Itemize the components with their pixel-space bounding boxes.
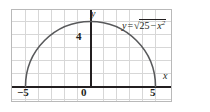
y-axis-label: y <box>91 8 95 19</box>
equation-annotation: y=√25−x2 <box>122 20 166 31</box>
x-axis-label: x <box>163 70 167 81</box>
y-tick-label-four: 4 <box>76 30 82 42</box>
equation-equals: = <box>126 20 134 31</box>
x-tick-label-neg5: −5 <box>17 86 29 98</box>
equation-exponent: 2 <box>162 19 166 27</box>
annotation-layer: −5 0 5 4 y x y=√25−x2 <box>0 0 210 112</box>
graph-figure: −5 0 5 4 y x y=√25−x2 <box>0 0 210 112</box>
x-tick-label-zero: 0 <box>81 86 87 98</box>
radicand-base: 25 <box>140 20 150 31</box>
x-tick-label-five: 5 <box>150 86 156 98</box>
